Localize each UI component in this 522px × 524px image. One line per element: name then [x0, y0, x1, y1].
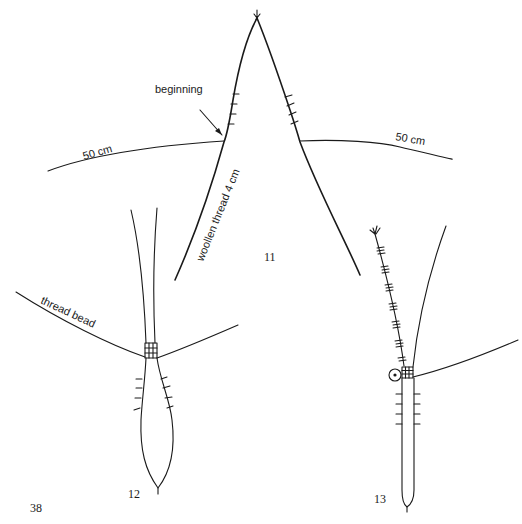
label-beginning: beginning [155, 83, 203, 95]
woollen-thread-left [175, 18, 257, 280]
cord-right [413, 340, 518, 377]
label-50cm-right: 50 cm [395, 130, 427, 147]
cord-left [16, 292, 145, 357]
woollen-thread-right [257, 18, 360, 275]
bead-grid-icon [402, 367, 413, 378]
label-50cm-left: 50 cm [81, 142, 113, 162]
figure-label-13: 13 [374, 492, 386, 506]
thread-bead-icon [145, 343, 157, 358]
figure-label-12: 12 [128, 487, 140, 501]
object-13: 13 [370, 226, 518, 512]
cord-left [48, 141, 224, 171]
object-11: beginning 50 cm 50 cm woollen thread 4 c… [48, 10, 452, 280]
cord-right [300, 140, 452, 159]
page-number: 38 [30, 501, 42, 515]
figure-label-11: 11 [264, 250, 276, 264]
technical-drawing: beginning 50 cm 50 cm woollen thread 4 c… [0, 0, 522, 524]
